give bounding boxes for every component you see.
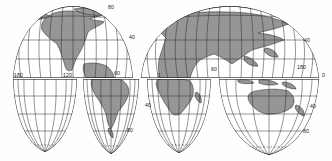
label-lon-0-prime: 0	[157, 73, 160, 78]
label-lon-60-east: 60	[211, 67, 217, 72]
label-lon-120-west: 120	[63, 73, 72, 78]
label-lon-180-east: 180	[297, 65, 306, 70]
map-graphic	[0, 0, 332, 161]
label-lat-40-north-right: 40	[304, 38, 310, 43]
label-lat-40-south-right: 40	[310, 104, 316, 109]
label-lat-40-south-left: 40	[145, 103, 151, 108]
interrupted-world-map-figure: 180 120 60 0 60 180 80 40 40 0 40 40 80 …	[0, 0, 332, 161]
label-lat-40-north-left: 40	[129, 35, 135, 40]
label-lat-80-south-left: 80	[127, 128, 133, 133]
label-lat-80-north: 80	[108, 5, 114, 10]
label-lon-180-west: 180	[14, 73, 23, 78]
label-lat-80-south-right: 80	[303, 129, 309, 134]
label-lon-60-west: 60	[114, 71, 120, 76]
label-lat-0-equator: 0	[322, 73, 325, 78]
